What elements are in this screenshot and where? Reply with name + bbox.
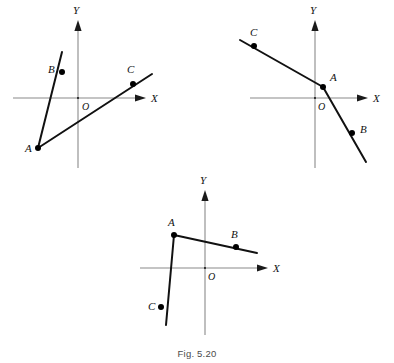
point-label-a: A [329, 71, 337, 83]
point-label-b: B [360, 123, 367, 135]
panel-2: XYOCAB [240, 4, 381, 168]
panel-3: XYOABC [140, 174, 281, 335]
point-a [35, 145, 41, 151]
figure-5-20-canvas: XYOABCXYOCABXYOABC [0, 0, 394, 363]
point-c [130, 81, 136, 87]
x-axis-arrowhead [257, 264, 268, 271]
figure-caption: Fig. 5.20 [0, 348, 394, 359]
point-b [233, 244, 239, 250]
x-axis-label: X [372, 92, 381, 104]
y-axis-label: Y [200, 174, 208, 186]
y-axis-label: Y [73, 4, 81, 16]
point-label-c: C [148, 300, 156, 312]
point-label-b: B [231, 228, 238, 240]
origin-dot [204, 267, 206, 269]
point-label-c: C [250, 26, 258, 38]
point-label-c: C [127, 63, 135, 75]
y-axis-arrowhead [201, 190, 208, 201]
origin-dot [77, 97, 79, 99]
point-label-b: B [48, 63, 55, 75]
figure-root: XYOABCXYOCABXYOABC Fig. 5.20 [0, 0, 394, 363]
point-label-a: A [167, 216, 175, 228]
x-axis-label: X [272, 262, 281, 274]
x-axis-arrowhead [357, 94, 368, 101]
x-axis-label: X [150, 92, 159, 104]
point-c [251, 43, 257, 49]
origin-dot [314, 97, 316, 99]
point-b [349, 130, 355, 136]
origin-label: O [82, 101, 89, 112]
y-axis-arrowhead [311, 20, 318, 31]
point-c [158, 304, 164, 310]
origin-label: O [208, 271, 215, 282]
point-b [59, 69, 65, 75]
y-axis-label: Y [310, 4, 318, 16]
panel-1: XYOABC [13, 4, 159, 168]
origin-label: O [318, 101, 325, 112]
polyline-CAB [240, 40, 366, 162]
point-a [171, 232, 177, 238]
x-axis-arrowhead [135, 94, 146, 101]
y-axis-arrowhead [74, 20, 81, 31]
point-label-a: A [24, 142, 32, 154]
point-a [320, 84, 326, 90]
